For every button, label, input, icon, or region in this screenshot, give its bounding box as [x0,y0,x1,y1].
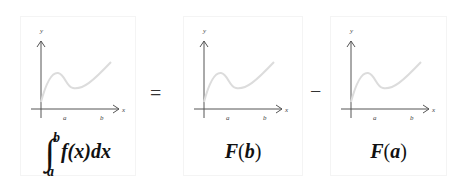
x-axis-label: x [431,106,436,114]
y-axis-label: y [39,27,44,35]
F-of-a-label: F(a) [331,140,446,163]
integral-limits: ba [51,134,61,174]
y-axis-label: y [202,27,207,35]
tick-a-label: a [226,114,230,122]
F-of-b-label: F(b) [184,140,302,163]
upper-limit: b [53,130,60,146]
function-argument: b [245,140,255,162]
lower-limit: a [47,164,54,180]
function-argument: a [390,140,400,162]
equals-sign: = [150,82,161,105]
F-of-b-graph: y x a b [184,17,302,137]
tick-a-label: a [63,114,67,122]
x-axis-label: x [284,106,289,114]
F-of-a-graph: y x a b [331,17,446,137]
x-axis-label: x [121,106,126,114]
close-paren: ) [255,140,262,162]
F-of-b-panel: y x a b F(b) [183,16,303,176]
minus-sign: − [310,80,321,103]
open-paren: ( [238,140,245,162]
function-name: F [370,140,383,162]
integral-panel: y x a b ∫baf(x)dx [20,16,136,176]
tick-b-label: b [263,114,267,122]
function-name: F [225,140,238,162]
F-of-a-panel: y x a b F(a) [330,16,447,176]
tick-b-label: b [100,114,104,122]
tick-a-label: a [373,114,377,122]
close-paren: ) [400,140,407,162]
integrand: f(x)dx [61,140,111,162]
integral-graph: y x a b [21,17,135,137]
tick-b-label: b [410,114,414,122]
function-curve [351,62,421,102]
function-curve [204,62,274,102]
integral-expression: ∫baf(x)dx [21,125,135,174]
function-curve [41,62,111,102]
y-axis-label: y [349,27,354,35]
